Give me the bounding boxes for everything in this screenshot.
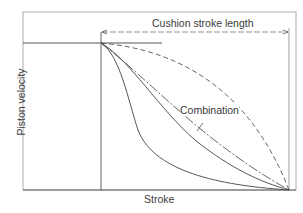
curve-rapid (101, 43, 289, 190)
curve-dashed (101, 43, 289, 190)
diagram: Cushion stroke length Combination Stroke… (0, 0, 303, 213)
curve-dash-dot (101, 43, 289, 190)
combination-label: Combination (180, 104, 239, 116)
diagram-svg (0, 0, 303, 213)
plot-frame (23, 12, 296, 190)
curve-combination (101, 43, 289, 190)
x-axis-label: Stroke (144, 193, 174, 205)
y-axis-label: Piston velocity (15, 57, 27, 147)
cushion-stroke-label: Cushion stroke length (152, 17, 254, 29)
